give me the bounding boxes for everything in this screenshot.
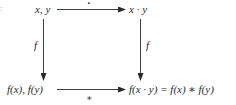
label-left-f: f (34, 39, 37, 51)
label-top-operation: · (87, 0, 91, 9)
label-bottom-operation: ∗ (86, 92, 92, 104)
node-bottom-left: f(x), f(y) (7, 83, 43, 95)
node-top-left: x, y (35, 3, 50, 15)
node-bottom-right: f(x · y) = f(x) ∗ f(y) (129, 83, 214, 95)
node-top-right: x · y (129, 3, 147, 15)
label-right-f: f (146, 39, 149, 51)
